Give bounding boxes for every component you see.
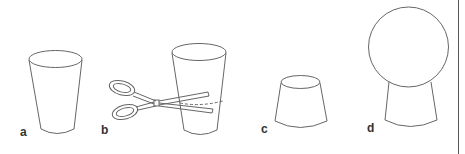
balloon-on-base-d [369, 7, 449, 127]
cup-a [29, 51, 82, 134]
scissors-icon [108, 78, 213, 122]
panel-label-b: b [101, 124, 108, 136]
panel-label-a: a [20, 126, 27, 138]
panel-label-d: d [367, 122, 374, 134]
illustration-canvas [0, 0, 465, 154]
cup-b [172, 44, 226, 135]
cup-base-c [275, 76, 327, 128]
panel-label-c: c [261, 123, 268, 135]
